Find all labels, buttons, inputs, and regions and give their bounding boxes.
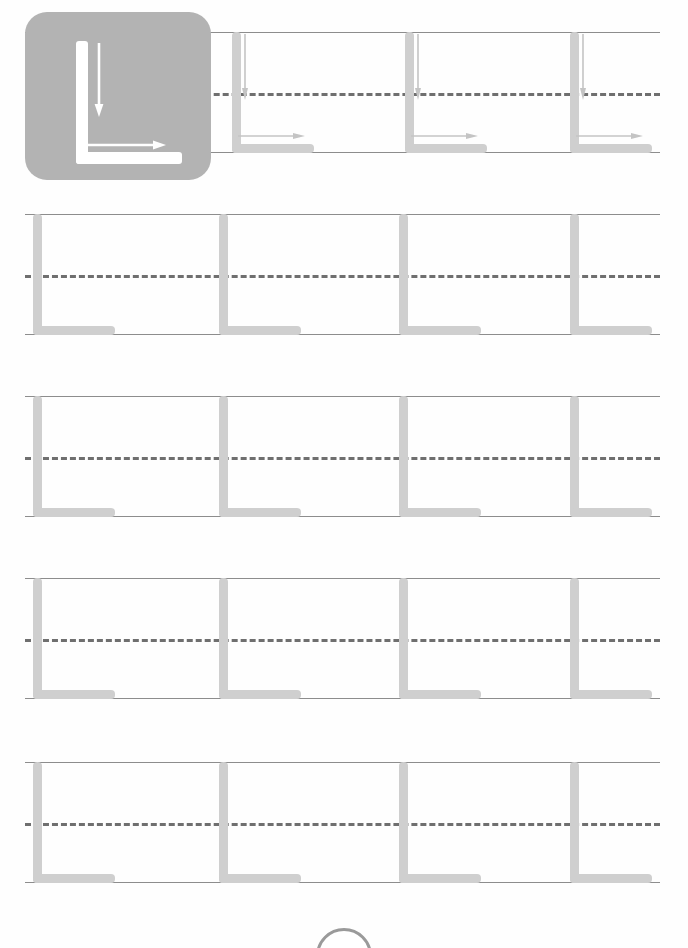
letter-l-horizontal-stroke [570, 508, 652, 517]
trace-letter-l[interactable] [399, 578, 491, 699]
down-arrow-head [242, 88, 248, 100]
letter-l-vertical-stroke [399, 214, 408, 335]
trace-letter-l[interactable] [570, 32, 662, 153]
trace-letter-l[interactable] [399, 396, 491, 517]
example-stroke-arrows [25, 12, 211, 180]
down-arrow-head [580, 88, 586, 100]
page-number-badge [316, 928, 372, 948]
letter-l-vertical-stroke [33, 396, 42, 517]
stroke-direction-arrows [232, 32, 324, 153]
stroke-direction-arrows [405, 32, 497, 153]
trace-letter-l[interactable] [33, 762, 125, 883]
letter-l-vertical-stroke [399, 578, 408, 699]
letter-l-vertical-stroke [219, 578, 228, 699]
writing-row-2 [0, 214, 688, 335]
trace-letter-l[interactable] [219, 396, 311, 517]
letter-l-vertical-stroke [570, 214, 579, 335]
letter-l-horizontal-stroke [570, 326, 652, 335]
letter-l-vertical-stroke [219, 762, 228, 883]
trace-letter-l[interactable] [570, 396, 662, 517]
letter-l-horizontal-stroke [33, 874, 115, 883]
letter-l-horizontal-stroke [219, 874, 301, 883]
trace-letter-l[interactable] [570, 762, 662, 883]
trace-letter-l[interactable] [399, 762, 491, 883]
trace-letter-l[interactable] [219, 214, 311, 335]
letter-l-vertical-stroke [399, 396, 408, 517]
letter-l-vertical-stroke [219, 214, 228, 335]
letter-l-vertical-stroke [570, 762, 579, 883]
trace-letter-l[interactable] [232, 32, 324, 153]
down-arrow-head [415, 88, 421, 100]
trace-letter-l[interactable] [570, 214, 662, 335]
letter-l-vertical-stroke [33, 214, 42, 335]
letter-l-vertical-stroke [33, 762, 42, 883]
letter-l-horizontal-stroke [33, 690, 115, 699]
worksheet-page [0, 0, 688, 948]
letter-example-tile [25, 12, 211, 180]
trace-letter-l[interactable] [399, 214, 491, 335]
stroke-1-down-arrow [95, 43, 104, 117]
letter-l-horizontal-stroke [570, 690, 652, 699]
letter-l-horizontal-stroke [33, 508, 115, 517]
letter-l-horizontal-stroke [219, 508, 301, 517]
letter-l-vertical-stroke [33, 578, 42, 699]
letter-l-horizontal-stroke [399, 508, 481, 517]
right-arrow-head [631, 133, 643, 139]
trace-letter-l[interactable] [570, 578, 662, 699]
letter-l-horizontal-stroke [399, 326, 481, 335]
letter-l-vertical-stroke [570, 578, 579, 699]
letter-l-horizontal-stroke [399, 690, 481, 699]
writing-row-5 [0, 762, 688, 883]
letter-l-vertical-stroke [399, 762, 408, 883]
right-arrow-head [293, 133, 305, 139]
letter-l-horizontal-stroke [570, 874, 652, 883]
trace-letter-l[interactable] [219, 762, 311, 883]
writing-row-4 [0, 578, 688, 699]
letter-l-horizontal-stroke [219, 326, 301, 335]
trace-letter-l[interactable] [405, 32, 497, 153]
trace-letter-l[interactable] [33, 396, 125, 517]
letter-l-horizontal-stroke [399, 874, 481, 883]
trace-letter-l[interactable] [219, 578, 311, 699]
letter-l-vertical-stroke [219, 396, 228, 517]
trace-letter-l[interactable] [33, 578, 125, 699]
stroke-2-right-arrow [87, 141, 166, 150]
stroke-direction-arrows [570, 32, 662, 153]
letter-l-vertical-stroke [570, 396, 579, 517]
writing-row-3 [0, 396, 688, 517]
letter-l-horizontal-stroke [33, 326, 115, 335]
letter-l-horizontal-stroke [219, 690, 301, 699]
right-arrow-head [466, 133, 478, 139]
trace-letter-l[interactable] [33, 214, 125, 335]
